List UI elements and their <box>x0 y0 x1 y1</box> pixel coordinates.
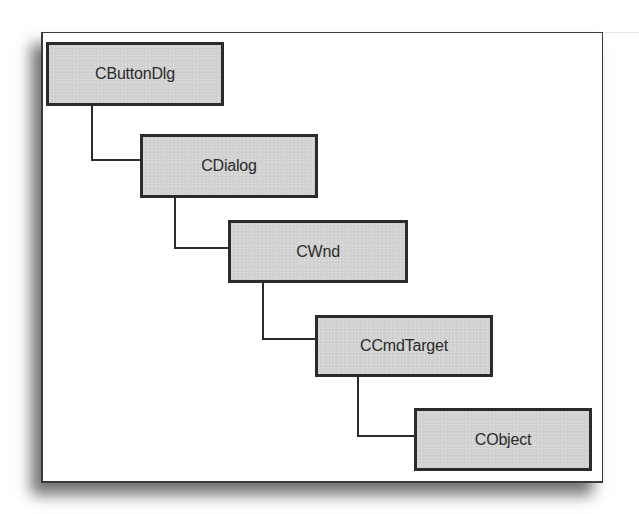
class-node-cobject: CObject <box>414 408 592 471</box>
class-label: CWnd <box>296 243 340 261</box>
class-label: CDialog <box>201 157 257 175</box>
class-label: CObject <box>475 431 531 449</box>
edge-cdialog-cwnd <box>175 198 229 248</box>
edge-ccmdtarget-cobject <box>358 377 415 436</box>
class-node-cwnd: CWnd <box>228 220 408 283</box>
class-label: CButtonDlg <box>95 65 175 83</box>
edge-cbuttondlg-cdialog <box>92 106 141 160</box>
class-node-cbuttondlg: CButtonDlg <box>46 42 224 106</box>
class-label: CCmdTarget <box>360 337 448 355</box>
edge-cwnd-ccmdtarget <box>263 283 316 339</box>
class-node-ccmdtarget: CCmdTarget <box>315 315 493 377</box>
class-node-cdialog: CDialog <box>140 134 318 198</box>
